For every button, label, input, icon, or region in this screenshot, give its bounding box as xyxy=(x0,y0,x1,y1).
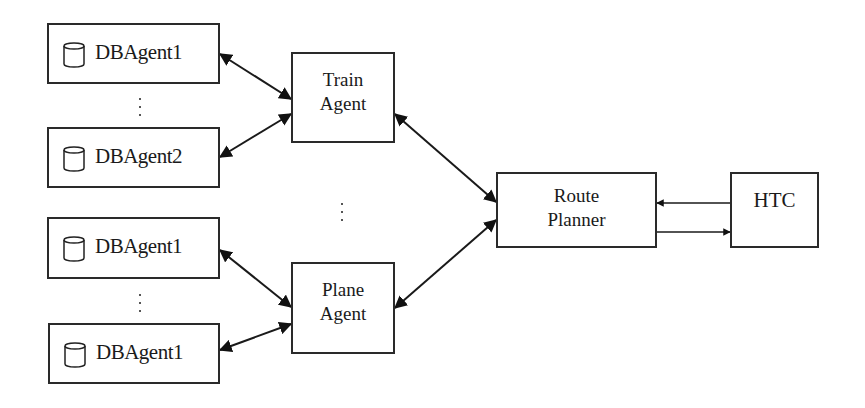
db-agent-box-3: DBAgent1 xyxy=(47,217,220,279)
db-agent-label: DBAgent1 xyxy=(96,340,183,365)
route-planner-label: Route Planner xyxy=(498,184,655,232)
plane-agent-label: Plane Agent xyxy=(293,278,393,326)
database-icon xyxy=(64,342,86,368)
db-agent-box-2: DBAgent2 xyxy=(47,127,220,188)
db-agent-box-4: DBAgent1 xyxy=(48,323,220,384)
database-icon xyxy=(63,42,85,68)
ellipsis-dots xyxy=(139,98,143,122)
htc-label: HTC xyxy=(732,188,817,213)
htc-box: HTC xyxy=(730,172,819,248)
arrow-db3-plane xyxy=(220,250,291,307)
train-agent-label: Train Agent xyxy=(293,68,393,116)
arrow-db4-plane xyxy=(220,324,291,350)
ellipsis-dots xyxy=(341,203,345,227)
arrow-db1-train xyxy=(220,54,291,99)
db-agent-label: DBAgent1 xyxy=(95,40,182,65)
database-icon xyxy=(63,146,85,172)
db-agent-label: DBAgent1 xyxy=(95,234,182,259)
ellipsis-dots xyxy=(139,294,143,318)
arrow-db2-train xyxy=(220,114,291,157)
db-agent-label: DBAgent2 xyxy=(95,144,182,169)
route-planner-box: Route Planner xyxy=(496,172,657,248)
arrow-plane-route xyxy=(395,220,496,308)
db-agent-box-1: DBAgent1 xyxy=(47,23,220,84)
arrow-train-route xyxy=(395,114,496,202)
plane-agent-box: Plane Agent xyxy=(291,262,395,354)
train-agent-box: Train Agent xyxy=(291,52,395,143)
database-icon xyxy=(63,236,85,262)
